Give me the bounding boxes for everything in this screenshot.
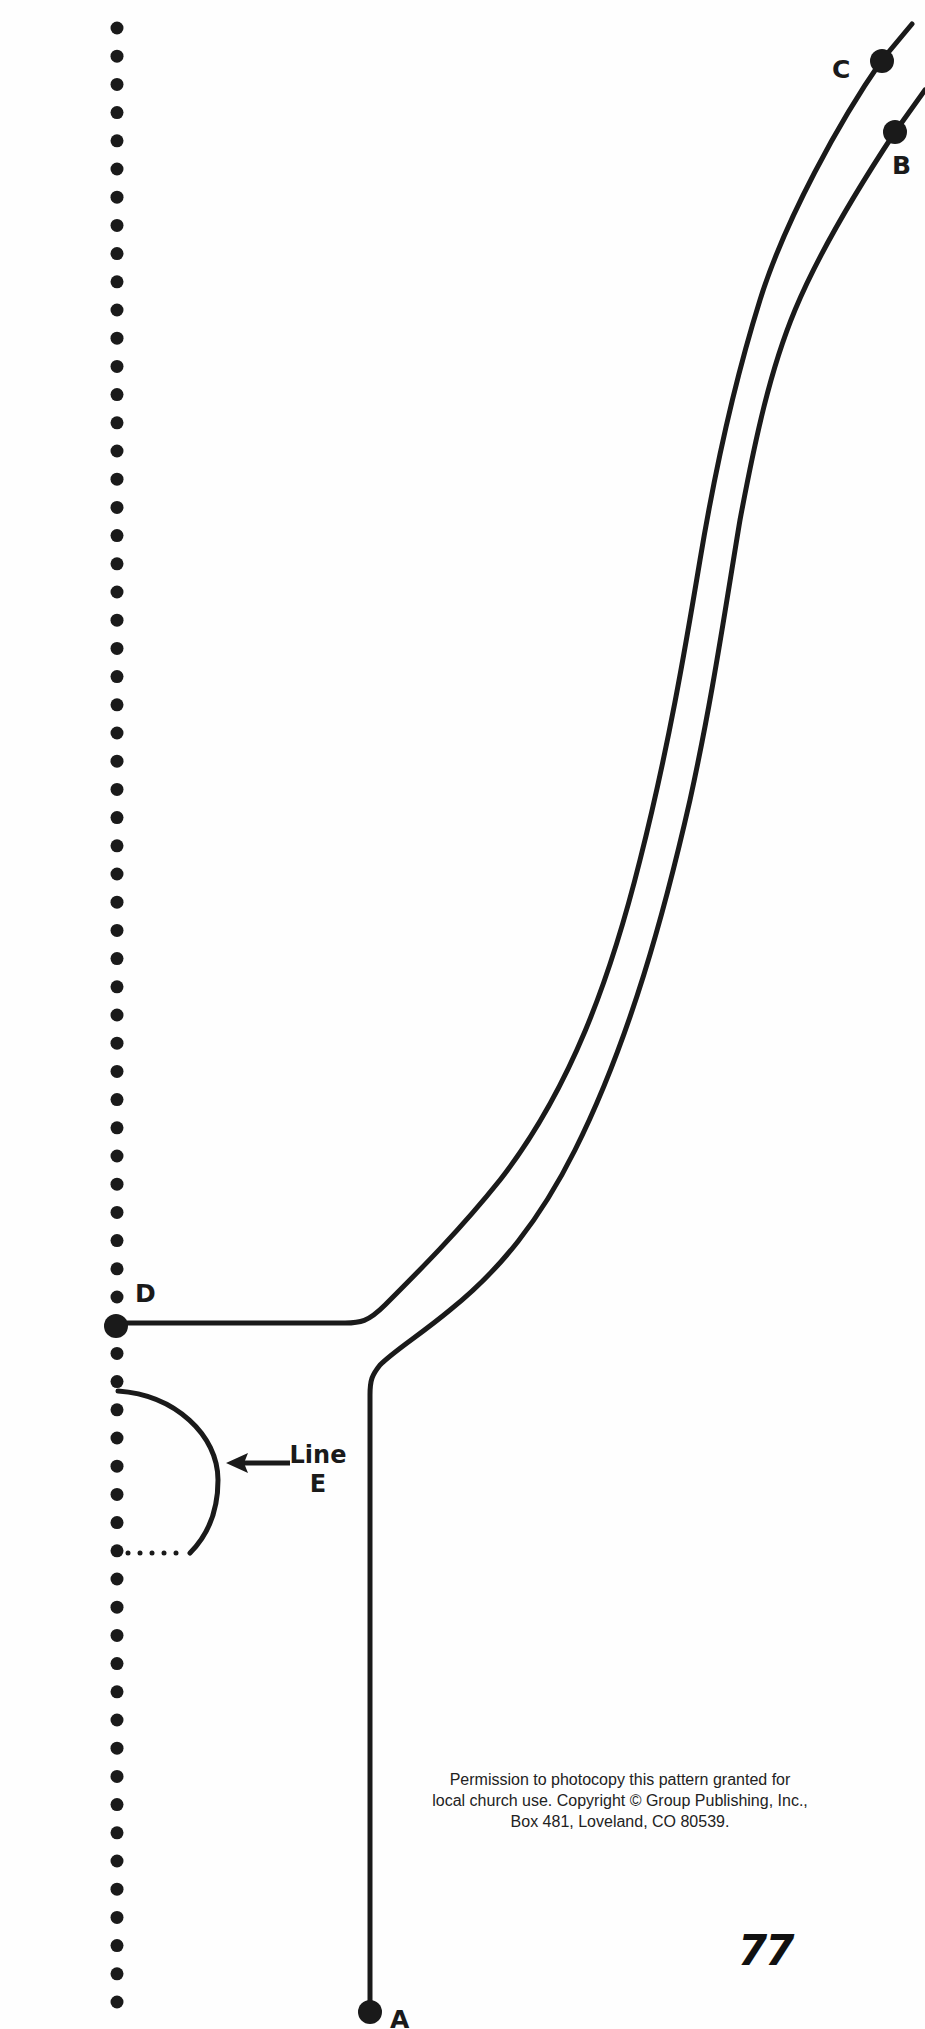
fold-dot (111, 219, 124, 232)
fold-dot (111, 275, 124, 288)
fold-dot (111, 1629, 124, 1642)
fold-dot (111, 952, 124, 965)
fold-dot (111, 698, 124, 711)
line-e-label-word: Line (288, 1441, 348, 1470)
fold-dot (111, 614, 124, 627)
label-a: A (390, 2007, 409, 2029)
fold-dot (111, 445, 124, 458)
fold-dot (111, 1855, 124, 1868)
fold-dot (111, 1742, 124, 1755)
fold-dot (111, 473, 124, 486)
fold-dot (111, 1657, 124, 1670)
fold-dot (111, 1967, 124, 1980)
pattern-page: C B D A Line E Permission to photocopy t… (0, 0, 925, 2029)
fold-dot (111, 1770, 124, 1783)
fold-dot (111, 50, 124, 63)
fold-dot (111, 1714, 124, 1727)
fold-dot (111, 1121, 124, 1134)
line-e-label: Line E (288, 1441, 348, 1499)
label-d: D (135, 1281, 156, 1306)
fold-dot (111, 642, 124, 655)
fold-dot (111, 388, 124, 401)
line-e-dotted-base (126, 1551, 179, 1556)
fold-dot (111, 839, 124, 852)
fold-dot (111, 1375, 124, 1388)
fold-dot (111, 1234, 124, 1247)
page-number: 77 (738, 1930, 792, 1972)
fold-dot (111, 1262, 124, 1275)
point-c-dot (870, 49, 894, 73)
fold-dot (111, 360, 124, 373)
fold-dot (111, 924, 124, 937)
fold-dot (111, 304, 124, 317)
fold-dot (111, 1432, 124, 1445)
fold-dot (111, 755, 124, 768)
fold-dot (111, 134, 124, 147)
notice-line: local church use. Copyright © Group Publ… (380, 1790, 860, 1811)
fold-dot (111, 1939, 124, 1952)
fold-dot (111, 163, 124, 176)
label-b: B (892, 153, 911, 178)
fold-dot (111, 783, 124, 796)
notice-line: Box 481, Loveland, CO 80539. (380, 1811, 860, 1832)
fold-dot (111, 811, 124, 824)
fold-dot (111, 1093, 124, 1106)
fold-dot (111, 1206, 124, 1219)
fold-dot (111, 1347, 124, 1360)
fold-dot (111, 1065, 124, 1078)
fold-dot (111, 501, 124, 514)
fold-dot (111, 1996, 124, 2009)
fold-dot (111, 22, 124, 35)
fold-dot (111, 1460, 124, 1473)
dotted-fold-line (111, 22, 124, 2009)
point-a-dot (358, 2000, 382, 2024)
line-b-to-a (370, 90, 925, 2010)
fold-dot (111, 332, 124, 345)
fold-dot (111, 1403, 124, 1416)
line-c-to-d (116, 24, 912, 1323)
fold-dot (111, 78, 124, 91)
fold-dot (111, 1009, 124, 1022)
fold-dot (111, 106, 124, 119)
copyright-notice: Permission to photocopy this pattern gra… (380, 1769, 860, 1832)
fold-dot (111, 1601, 124, 1614)
fold-dot (111, 670, 124, 683)
line-e-label-letter: E (288, 1470, 348, 1499)
fold-dot (111, 1911, 124, 1924)
fold-dot (111, 1883, 124, 1896)
label-c: C (832, 57, 850, 82)
fold-dot (111, 1685, 124, 1698)
pattern-drawing (0, 0, 925, 2029)
fold-dot (111, 1037, 124, 1050)
fold-dot (111, 1178, 124, 1191)
fold-dot (111, 1516, 124, 1529)
fold-dot (111, 557, 124, 570)
point-d-dot (104, 1314, 128, 1338)
fold-dot (111, 1573, 124, 1586)
fold-dot (111, 416, 124, 429)
fold-dot (111, 1488, 124, 1501)
fold-dot (111, 727, 124, 740)
fold-dot (111, 1291, 124, 1304)
fold-dot (111, 868, 124, 881)
fold-dot (111, 1798, 124, 1811)
line-e-arc (118, 1391, 218, 1553)
point-b-dot (883, 120, 907, 144)
fold-dot (111, 1150, 124, 1163)
arrow-icon (226, 1453, 290, 1473)
fold-dot (111, 247, 124, 260)
fold-dot (111, 896, 124, 909)
fold-dot (111, 191, 124, 204)
fold-dot (111, 586, 124, 599)
notice-line: Permission to photocopy this pattern gra… (380, 1769, 860, 1790)
fold-dot (111, 1826, 124, 1839)
fold-dot (111, 980, 124, 993)
fold-dot (111, 529, 124, 542)
fold-dot (111, 1544, 124, 1557)
